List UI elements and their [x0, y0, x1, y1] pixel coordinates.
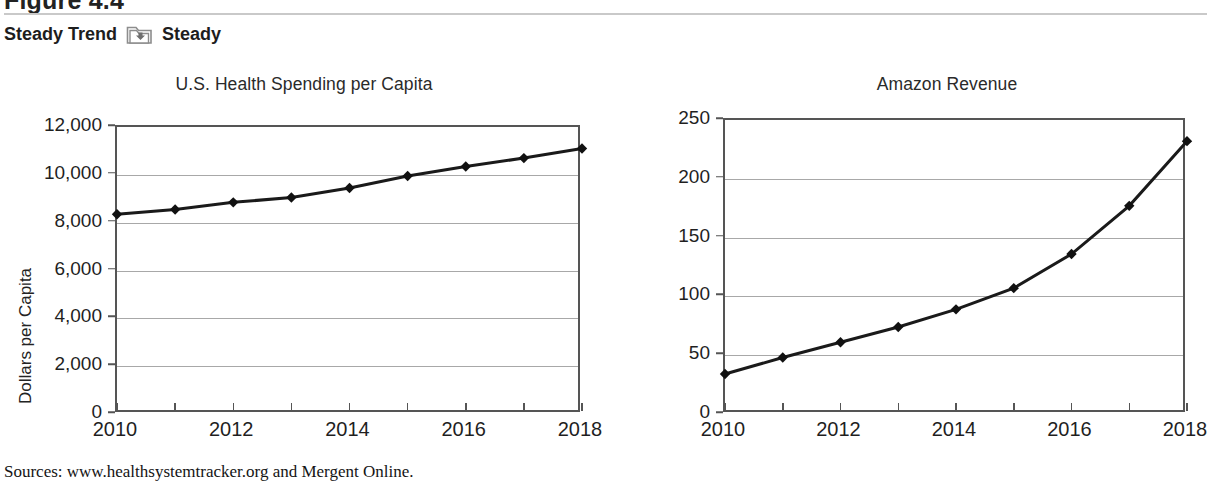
y-tick-label: 2,000: [0, 353, 102, 375]
x-tick-label: 2012: [209, 418, 254, 441]
series-line: [725, 141, 1187, 374]
sources-note: Sources: www.healthsystemtracker.org and…: [4, 462, 413, 482]
data-point-marker: [951, 304, 961, 314]
y-tick-label: 50: [639, 342, 710, 364]
y-tick-mark: [716, 294, 723, 296]
header-divider: [4, 13, 1207, 15]
y-tick-mark: [716, 176, 723, 178]
y-tick-label: 12,000: [0, 114, 102, 136]
chart-title: U.S. Health Spending per Capita: [44, 74, 564, 95]
y-tick-mark: [108, 220, 115, 222]
y-tick-mark: [108, 172, 115, 174]
y-tick-label: 6,000: [0, 258, 102, 280]
x-tick-label: 2018: [558, 418, 603, 441]
y-tick-label: 4,000: [0, 305, 102, 327]
plot-area: [115, 125, 580, 412]
x-tick-label: 2010: [93, 418, 138, 441]
y-tick-mark: [716, 352, 723, 354]
trend-label: Steady Trend: [4, 24, 117, 45]
y-tick-mark: [108, 363, 115, 365]
y-tick-mark: [716, 235, 723, 237]
data-series: [725, 120, 1187, 414]
y-tick-mark: [716, 117, 723, 119]
y-tick-label: 150: [639, 225, 710, 247]
x-tick-label: 2014: [325, 418, 370, 441]
x-tick-label: 2016: [1047, 418, 1092, 441]
data-point-marker: [835, 337, 845, 347]
plot-area: [723, 118, 1185, 412]
y-tick-mark: [108, 268, 115, 270]
x-tick-label: 2010: [701, 418, 746, 441]
data-point-marker: [170, 204, 180, 214]
x-tick-label: 2018: [1163, 418, 1208, 441]
y-tick-label: 0: [0, 401, 102, 423]
series-line: [117, 149, 582, 215]
y-tick-mark: [716, 411, 723, 413]
y-tick-mark: [108, 124, 115, 126]
y-tick-label: 8,000: [0, 210, 102, 232]
data-point-marker: [228, 197, 238, 207]
data-point-marker: [402, 171, 412, 181]
y-tick-label: 0: [639, 401, 710, 423]
y-tick-mark: [108, 316, 115, 318]
folder-down-icon: [126, 24, 153, 45]
y-tick-label: 10,000: [0, 162, 102, 184]
data-point-marker: [577, 143, 587, 153]
x-tick-label: 2016: [442, 418, 487, 441]
data-point-marker: [461, 161, 471, 171]
data-point-marker: [519, 153, 529, 163]
data-point-marker: [344, 183, 354, 193]
chart-health-spending: U.S. Health Spending per Capita Dollars …: [0, 74, 610, 449]
chart-amazon-revenue: Amazon Revenue Billions of Dollars 05010…: [640, 74, 1211, 449]
y-tick-mark: [108, 411, 115, 413]
y-tick-label: 250: [639, 107, 710, 129]
x-tick-label: 2014: [932, 418, 977, 441]
data-point-marker: [720, 369, 730, 379]
data-point-marker: [286, 192, 296, 202]
y-axis-title: Dollars per Capita: [16, 268, 36, 404]
chart-title: Amazon Revenue: [712, 74, 1182, 95]
data-point-marker: [778, 352, 788, 362]
data-series: [117, 127, 582, 414]
data-point-marker: [893, 322, 903, 332]
data-point-marker: [112, 209, 122, 219]
trend-value: Steady: [162, 24, 221, 45]
trend-bar: Steady Trend Steady: [4, 24, 221, 45]
x-tick-label: 2012: [816, 418, 861, 441]
y-tick-label: 200: [639, 166, 710, 188]
y-tick-label: 100: [639, 283, 710, 305]
